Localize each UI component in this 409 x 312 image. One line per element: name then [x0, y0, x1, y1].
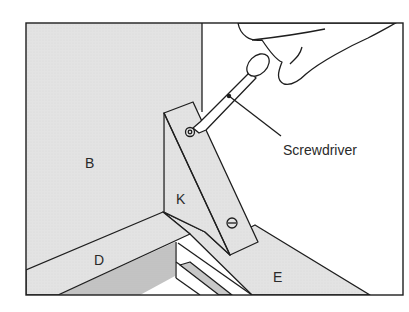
label-k: K	[176, 191, 186, 207]
label-d: D	[94, 252, 104, 268]
label-b: B	[85, 155, 94, 171]
leader-line	[229, 96, 281, 136]
label-screwdriver: Screwdriver	[283, 142, 357, 158]
label-e: E	[273, 269, 282, 285]
assembly-diagram: B K D E Screwdriver	[0, 0, 409, 312]
